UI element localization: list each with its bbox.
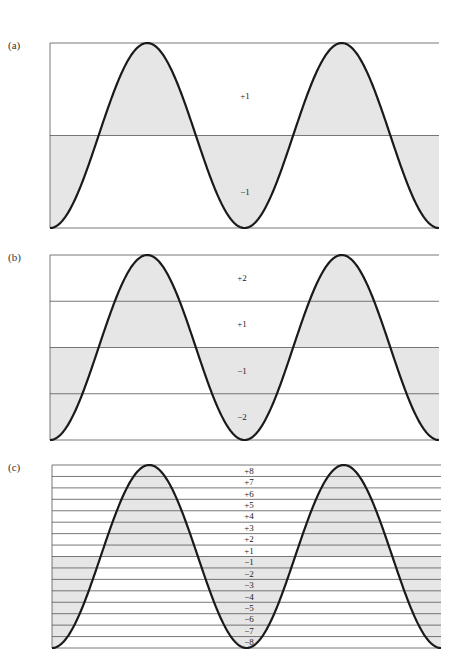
level-label: +5 [244, 500, 254, 510]
level-label: +1 [244, 546, 254, 556]
quantized-sine-figure: +1−1+2+1−1−2+8+7+6+5+4+3+2+1−1−2−3−4−5−6… [0, 0, 459, 671]
level-label: +4 [244, 511, 254, 521]
level-label: −1 [237, 366, 247, 376]
level-label: −6 [244, 614, 254, 624]
level-label: −7 [244, 626, 254, 636]
level-label: −4 [244, 592, 254, 602]
level-label: −8 [244, 637, 254, 647]
level-label: +8 [244, 466, 254, 476]
level-label: −2 [237, 412, 247, 422]
level-label: −1 [240, 187, 250, 197]
level-label: +1 [240, 91, 250, 101]
level-label: +6 [244, 489, 254, 499]
level-label: −1 [244, 557, 254, 567]
level-label: +1 [237, 319, 247, 329]
level-label: +2 [237, 273, 247, 283]
level-label: +3 [244, 523, 254, 533]
level-label: −2 [244, 569, 254, 579]
level-label: +2 [244, 534, 254, 544]
level-label: +7 [244, 477, 254, 487]
level-label: −3 [244, 580, 254, 590]
level-label: −5 [244, 603, 254, 613]
